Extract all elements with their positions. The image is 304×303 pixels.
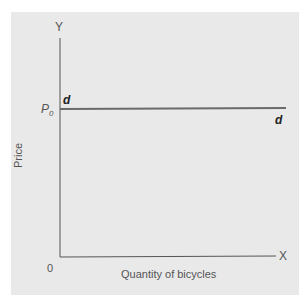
p0-main: P <box>41 102 49 116</box>
origin-label: 0 <box>47 262 53 274</box>
demand-line-d <box>60 108 286 109</box>
p0-tick-label: P0 <box>41 102 53 118</box>
p0-subscript: 0 <box>49 109 53 118</box>
y-axis-letter: Y <box>55 20 63 34</box>
x-axis <box>60 256 276 257</box>
x-axis-letter: X <box>279 249 287 263</box>
x-axis-title: Quantity of bicycles <box>121 268 216 280</box>
chart-svg <box>0 0 304 303</box>
y-axis-title: Price <box>12 143 24 168</box>
demand-label-left: d <box>63 93 70 107</box>
demand-label-right: d <box>275 113 282 127</box>
